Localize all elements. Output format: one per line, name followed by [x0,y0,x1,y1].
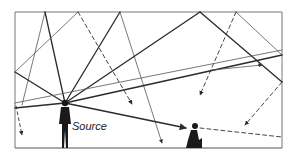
listener-person-icon [186,123,202,148]
sound-rays [15,12,282,143]
reflection-diagram [0,0,295,165]
source-label: Source [72,120,107,132]
room-walls [15,12,282,148]
source-person-icon [59,100,71,148]
